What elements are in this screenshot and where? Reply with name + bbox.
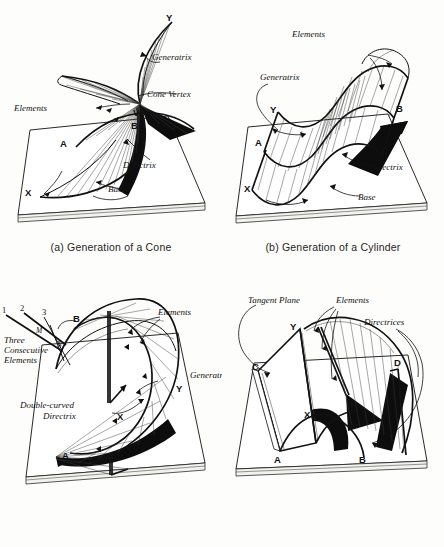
point-b: B <box>131 120 138 131</box>
label-generatrix: Generatrix <box>152 52 192 62</box>
point-x: X <box>244 183 251 194</box>
label-three-consecutive-line2: Consecutive <box>4 345 48 355</box>
panel-generation-of-a-cylinder: Elements Generatrix Directrix Base A B X… <box>222 0 444 273</box>
point-x: X <box>304 409 311 420</box>
point-c: C <box>252 361 259 372</box>
label-base: Base <box>108 184 126 194</box>
point-a: A <box>274 454 281 465</box>
label-elements: Elements <box>13 103 47 113</box>
label-base: Base <box>358 192 376 202</box>
label-generatrix: Generatrix <box>260 72 300 82</box>
inset-number-2: 2 <box>20 303 24 313</box>
caption-panel-b: (b) Generation of a Cylinder <box>222 241 444 254</box>
label-directrix: Directrix <box>369 162 403 172</box>
point-b: B <box>359 454 366 465</box>
panel-tangent-plane-convolute: Tangent Plane Elements Directrices C D Y… <box>222 273 444 547</box>
point-a: A <box>60 138 67 149</box>
label-elements: Elements <box>157 307 191 317</box>
label-generatrix: Generatrix <box>190 370 222 380</box>
caption-line-1: (b) Generation of a Cylinder <box>222 241 444 254</box>
inset-point-m: M <box>35 326 43 335</box>
point-y: Y <box>166 12 173 23</box>
label-tangent-plane: Tangent Plane <box>248 295 300 305</box>
label-directrix: Directrix <box>122 160 156 170</box>
point-y: Y <box>270 104 277 115</box>
point-b: B <box>73 313 80 324</box>
inset-number-3: 3 <box>42 307 46 317</box>
point-y: Y <box>290 321 297 332</box>
point-a: A <box>62 450 69 461</box>
point-x: X <box>25 187 32 198</box>
point-v: V <box>133 107 140 118</box>
label-elements: Elements <box>335 295 369 305</box>
label-elements: Elements <box>291 29 325 39</box>
figure-sheet: Generatrix Elements Cone Vertex Directri… <box>0 0 444 547</box>
point-d: D <box>394 357 401 368</box>
label-double-curved-line2: Directrix <box>42 411 76 421</box>
point-a: A <box>255 137 262 148</box>
caption-panel-a: (a) Generation of a Cone <box>0 241 222 254</box>
panel-tangent-line-convolute: 1 2 3 M N Three Consecutive Elements <box>0 273 222 547</box>
label-cone-vertex: Cone Vertex <box>147 89 191 99</box>
convolute-tangent-plane-illustration: Tangent Plane Elements Directrices C D Y… <box>222 273 444 547</box>
point-b: B <box>396 103 403 114</box>
panel-generation-of-a-cone: Generatrix Elements Cone Vertex Directri… <box>0 0 222 273</box>
convolute-tangent-line-illustration: 1 2 3 M N Three Consecutive Elements <box>0 273 222 547</box>
caption-line-1: (a) Generation of a Cone <box>0 241 222 254</box>
inset-number-1: 1 <box>2 305 6 315</box>
cylinder-illustration: Elements Generatrix Directrix Base A B X… <box>222 0 444 273</box>
point-y: Y <box>176 383 183 394</box>
point-x: X <box>117 411 124 422</box>
inset-point-n: N <box>56 340 63 349</box>
cone-illustration: Generatrix Elements Cone Vertex Directri… <box>0 0 222 273</box>
label-double-curved-line1: Double-curved <box>19 400 74 410</box>
label-three-consecutive-line3: Elements <box>3 355 37 365</box>
label-directrices: Directrices <box>363 317 405 327</box>
label-three-consecutive-line1: Three <box>4 335 25 345</box>
